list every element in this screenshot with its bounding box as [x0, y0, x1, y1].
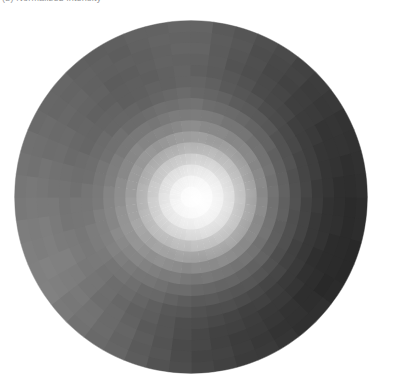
polar-heatmap-canvas — [0, 0, 393, 390]
figure-root: (b) Normalized intensity — [0, 0, 393, 390]
